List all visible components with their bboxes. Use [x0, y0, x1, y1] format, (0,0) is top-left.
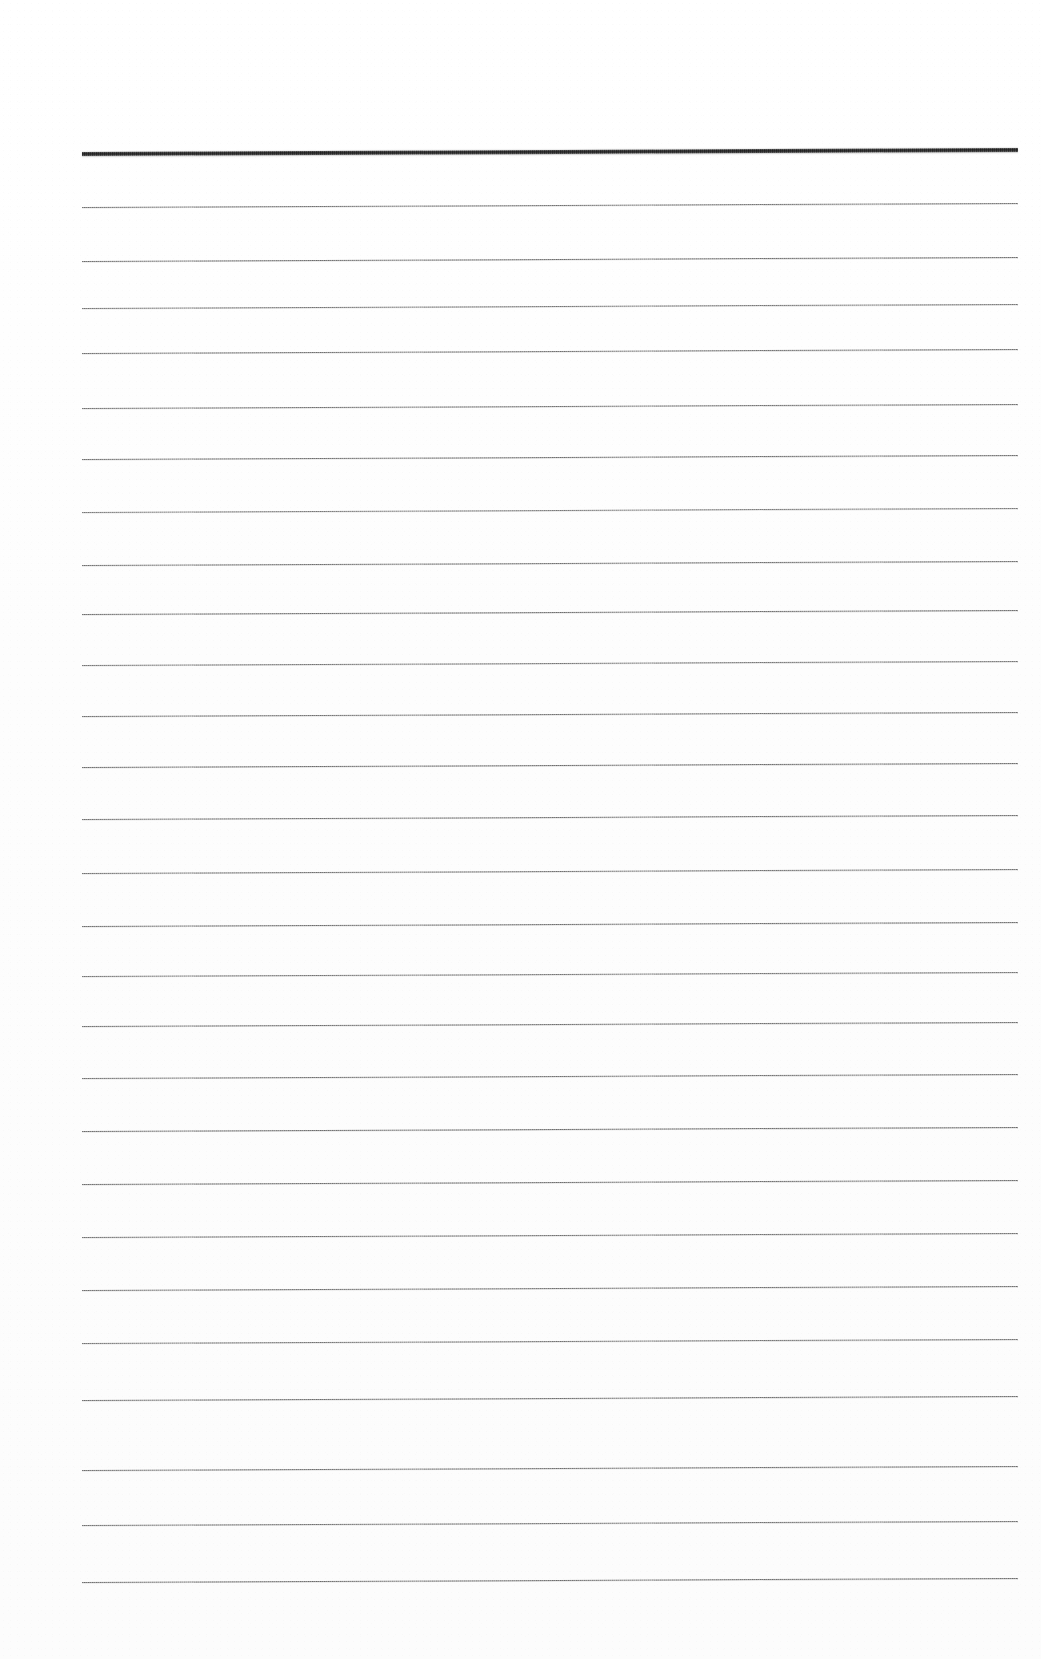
- rule-ink: [82, 712, 1018, 717]
- rule-ink: [82, 922, 1018, 927]
- rule-ink: [82, 1396, 1018, 1401]
- rule-ink: [82, 1127, 1018, 1132]
- scanned-page: [0, 0, 1041, 1659]
- rule-ink: [82, 1022, 1018, 1027]
- rule-ink: [82, 148, 1018, 156]
- rule-ink: [82, 1339, 1018, 1344]
- rule-ink: [82, 508, 1018, 513]
- rule-ink: [82, 972, 1018, 977]
- rule-ink: [82, 257, 1018, 262]
- rule-ink: [82, 815, 1018, 820]
- rule-ink: [82, 1578, 1018, 1583]
- rule-ink: [82, 1180, 1018, 1185]
- rule-ink: [82, 349, 1018, 354]
- rule-ink: [82, 1286, 1018, 1291]
- rule-ink: [82, 1521, 1018, 1526]
- rule-ink: [82, 455, 1018, 460]
- rule-ink: [82, 661, 1018, 666]
- rule-ink: [82, 869, 1018, 874]
- rule-ink: [82, 203, 1018, 208]
- rule-ink: [82, 1233, 1018, 1238]
- rule-ink: [82, 304, 1018, 309]
- rule-ink: [82, 610, 1018, 615]
- rule-ink: [82, 1074, 1018, 1079]
- rule-ink: [82, 1466, 1018, 1471]
- ruled-lines-layer: [0, 0, 1041, 1659]
- rule-ink: [82, 763, 1018, 768]
- rule-ink: [82, 561, 1018, 566]
- rule-ink: [82, 404, 1018, 409]
